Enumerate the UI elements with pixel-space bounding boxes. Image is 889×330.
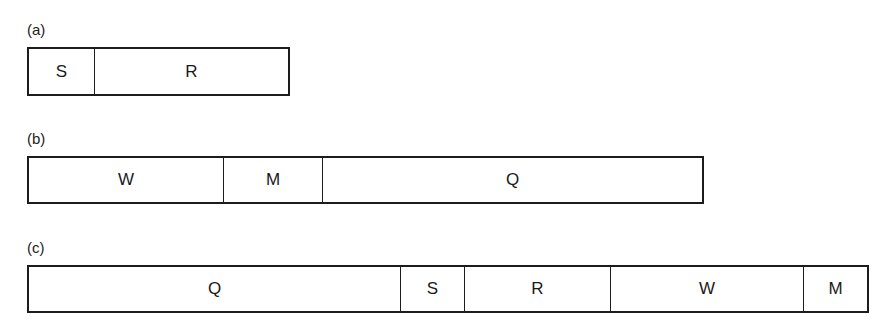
row-label-b: (b): [27, 131, 45, 147]
row-label-c: (c): [27, 240, 45, 256]
segment-m: M: [224, 158, 323, 202]
segment-bar-b: W M Q: [27, 156, 704, 204]
segment-w: W: [611, 267, 804, 311]
segment-r: R: [465, 267, 611, 311]
segment-s: S: [29, 49, 95, 94]
segment-r: R: [95, 49, 288, 94]
segment-m: M: [804, 267, 867, 311]
row-label-a: (a): [27, 22, 45, 38]
segment-bar-a: S R: [27, 47, 290, 96]
segment-q: Q: [323, 158, 702, 202]
segment-s: S: [401, 267, 465, 311]
segment-bar-c: Q S R W M: [27, 265, 869, 313]
segment-q: Q: [29, 267, 401, 311]
segment-w: W: [29, 158, 224, 202]
